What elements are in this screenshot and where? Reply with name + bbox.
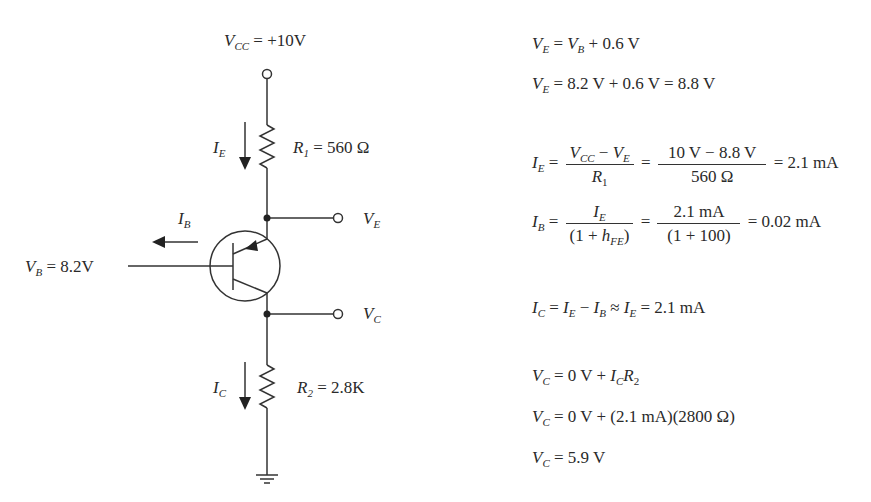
ground-icon [256, 475, 278, 483]
vc-terminal-icon [334, 310, 343, 319]
r2-value: = 2.8K [313, 378, 365, 397]
eq6-lhs: V [532, 366, 542, 385]
eq3-r1: R [592, 167, 602, 186]
vc-junction-dot-icon [264, 311, 271, 318]
equation-ve-value: VE = 8.2 V + 0.6 V = 8.8 V [532, 75, 715, 92]
eq5-t2: − [576, 298, 594, 317]
vc-label: VC [363, 305, 381, 322]
vb-value: = 8.2V [42, 257, 94, 276]
equation-ic: IC = IE − IB ≈ IE = 2.1 mA [532, 299, 705, 316]
ic-arrow-icon [239, 397, 251, 410]
ve-junction-dot-icon [264, 215, 271, 222]
emitter-arrow-icon [245, 240, 258, 251]
eq4-frac2-den: (1 + 100) [657, 224, 740, 244]
eq2-lhs: V [532, 74, 542, 93]
vc-symbol: V [363, 304, 373, 323]
equation-vc-formula: VC = 0 V + ICR2 [532, 367, 639, 384]
eq3-frac2-den: 560 Ω [658, 165, 766, 185]
r2-resistor-icon [260, 365, 274, 408]
eq8-lhs-sub: C [542, 457, 549, 469]
eq3-r1-sub: 1 [602, 176, 608, 188]
eq5-t3: ≈ [606, 298, 624, 317]
eq2-rhs: = 8.2 V + 0.6 V = 8.8 V [549, 74, 715, 93]
eq6-r2-sub: 2 [634, 375, 640, 387]
ve-sub: E [373, 218, 380, 230]
ib-label: IB [178, 210, 190, 227]
r1-value: = 560 Ω [309, 138, 369, 157]
eq8-lhs: V [532, 448, 542, 467]
eq3-result: = 2.1 mA [774, 153, 839, 172]
vcc-sub: CC [234, 40, 249, 52]
eq3-vcc-sub: CC [580, 152, 595, 164]
eq3-vcc: V [570, 143, 580, 162]
eq5-s1-sub: E [569, 307, 576, 319]
r2-symbol: R [297, 378, 307, 397]
eq5-t1: = [545, 298, 563, 317]
eq4-lhs-sub: B [538, 221, 545, 233]
r2-label: R2 = 2.8K [297, 379, 365, 396]
r1-label: R1 = 560 Ω [293, 139, 369, 156]
equation-ib: IB = IE (1 + hFE) = 2.1 mA (1 + 100) = 0… [532, 203, 821, 244]
eq3-ve: V [613, 143, 623, 162]
eq4-den-b: ) [624, 226, 630, 245]
equation-ie: IE = VCC − VE R1 = 10 V − 8.8 V 560 Ω = … [532, 144, 838, 185]
vcc-symbol: V [224, 31, 234, 50]
eq7-lhs: V [532, 407, 542, 426]
eq8-rhs: = 5.9 V [550, 448, 606, 467]
ie-label: IE [213, 139, 225, 156]
equation-vc-substitution: VC = 0 V + (2.1 mA)(2800 Ω) [532, 408, 735, 425]
eq4-frac2-num: 2.1 mA [657, 203, 740, 224]
vcc-terminal-icon [263, 70, 272, 79]
eq3-fraction-1: VCC − VE R1 [566, 144, 634, 185]
eq4-fraction-1: IE (1 + hFE) [566, 203, 634, 244]
ic-sub: C [219, 387, 226, 399]
eq3-ve-sub: E [623, 152, 630, 164]
eq1-vb: V [567, 34, 577, 53]
eq1-eq: = [549, 34, 567, 53]
eq6-t1: = 0 V + [550, 366, 611, 385]
vc-sub: C [373, 313, 380, 325]
eq5-t4: = 2.1 mA [636, 298, 705, 317]
ve-terminal-icon [334, 214, 343, 223]
eq1-rest: + 0.6 V [584, 34, 640, 53]
eq4-fraction-2: 2.1 mA (1 + 100) [657, 203, 740, 244]
eq3-minus: − [595, 143, 613, 162]
ib-arrow-icon [152, 236, 165, 248]
ie-sub: E [219, 147, 226, 159]
eq5-lhs-sub: C [538, 307, 545, 319]
circuit-schematic [0, 0, 871, 502]
eq5-s2-sub: B [599, 307, 606, 319]
ve-label: VE [363, 210, 380, 227]
eq4-h: h [602, 226, 611, 245]
eq4-h-sub: FE [610, 235, 623, 247]
vb-label: VB = 8.2V [25, 258, 94, 275]
vcc-value: = +10V [249, 31, 306, 50]
equation-ve-definition: VE = VB + 0.6 V [532, 35, 640, 52]
r1-resistor-icon [260, 125, 274, 168]
eq7-rhs: = 0 V + (2.1 mA)(2800 Ω) [550, 407, 735, 426]
eq3-fraction-2: 10 V − 8.8 V 560 Ω [658, 144, 766, 185]
ib-sub: B [184, 218, 191, 230]
eq6-r2: R [623, 366, 633, 385]
eq1-lhs: V [532, 34, 542, 53]
eq4-den-a: (1 + [570, 226, 602, 245]
ic-label: IC [213, 379, 226, 396]
ie-arrow-icon [239, 157, 251, 170]
pnp-transistor-icon [128, 231, 280, 301]
vcc-label: VCC = +10V [224, 32, 306, 49]
eq3-frac2-num: 10 V − 8.8 V [658, 144, 766, 165]
equation-vc-result: VC = 5.9 V [532, 449, 605, 466]
r1-symbol: R [293, 138, 303, 157]
eq6-lhs-sub: C [542, 375, 549, 387]
eq4-result: = 0.02 mA [748, 212, 821, 231]
eq4-ie-sub: E [599, 211, 606, 223]
vb-symbol: V [25, 257, 35, 276]
eq3-lhs-sub: E [538, 162, 545, 174]
ve-symbol: V [363, 209, 373, 228]
eq7-lhs-sub: C [542, 416, 549, 428]
